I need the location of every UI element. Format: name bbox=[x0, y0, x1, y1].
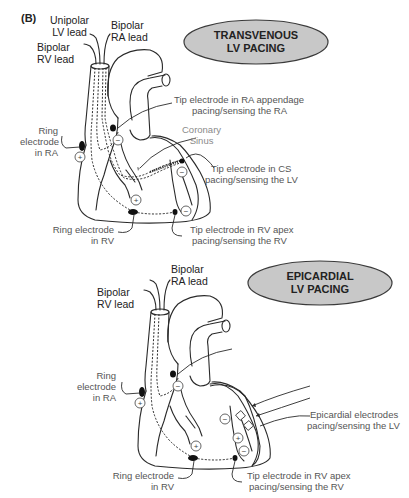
tip-electrode-ra-label: Tip electrode in RA appendage pacing/sen… bbox=[174, 94, 304, 116]
svg-text:−: − bbox=[116, 136, 121, 145]
svg-text:−: − bbox=[176, 382, 181, 391]
svg-text:−: − bbox=[242, 447, 247, 456]
epicardial-tip-electrode-rv-label: Tip electrode in RV apex pacing/sensing … bbox=[247, 470, 351, 492]
tip-electrode-cs-label: Tip electrode in CS pacing/sensing the L… bbox=[205, 163, 298, 185]
epicardial-bipolar-ra-lead-label: Bipolar RA lead bbox=[171, 263, 208, 287]
ring-electrode-ra-label: Ring electrode in RA bbox=[20, 125, 58, 158]
bipolar-rv-lead-label: Bipolar RV lead bbox=[37, 41, 74, 65]
tip-electrode-rv bbox=[173, 209, 178, 215]
svg-text:+: + bbox=[78, 153, 83, 162]
epicardial-bipolar-rv-lead-label: Bipolar RV lead bbox=[97, 286, 134, 310]
svg-text:−: − bbox=[184, 207, 189, 216]
tip-electrode-ra bbox=[110, 125, 116, 132]
ring-electrode-ra bbox=[79, 141, 85, 151]
bipolar-ra-lead-label: Bipolar RA lead bbox=[111, 19, 148, 43]
pacing-figure: + − − + − bbox=[0, 0, 409, 498]
svg-text:+: + bbox=[194, 442, 199, 451]
svg-text:+: + bbox=[138, 399, 143, 408]
tip-electrode-rv-label: Tip electrode in RV apex pacing/sensing … bbox=[190, 224, 294, 246]
ring-electrode-rv bbox=[128, 209, 138, 215]
svg-text:−: − bbox=[180, 168, 185, 177]
epicardial-title: EPICARDIAL LV PACING bbox=[248, 261, 392, 305]
panel-label: (B) bbox=[21, 12, 36, 24]
transvenous-title: TRANSVENOUS LV PACING bbox=[184, 20, 328, 64]
epicardial-ring-electrode-rv-label: Ring electrode in RV bbox=[100, 470, 174, 492]
ring-electrode-rv-label: Ring electrode in RV bbox=[40, 224, 114, 246]
svg-text:+: + bbox=[236, 434, 241, 443]
svg-text:−: − bbox=[223, 415, 228, 424]
epicardial-electrodes-label: Epicardial electrodes pacing/sensing the… bbox=[307, 409, 400, 431]
unipolar-lv-lead-label: Unipolar LV lead bbox=[50, 14, 89, 38]
epicardial-ring-electrode-ra-label: Ring electrode in RA bbox=[76, 370, 116, 403]
svg-text:+: + bbox=[134, 196, 139, 205]
tip-electrode-cs bbox=[180, 159, 185, 164]
coronary-sinus-label: Coronary Sinus bbox=[182, 124, 221, 146]
epicardial-heart: + − − + + − bbox=[122, 280, 311, 482]
